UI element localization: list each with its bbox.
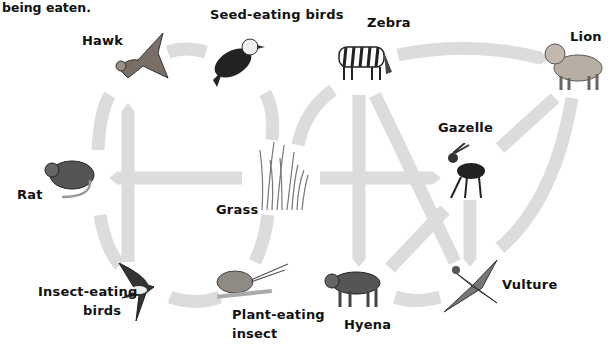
seed-eating-bird-icon bbox=[205, 35, 265, 90]
label-seed-eating-birds: Seed-eating birds bbox=[210, 8, 344, 23]
label-insect-eating: Insect-eating bbox=[38, 285, 137, 300]
label-hawk: Hawk bbox=[82, 34, 123, 49]
gazelle-icon bbox=[443, 143, 491, 201]
rat-icon bbox=[42, 155, 102, 203]
label-insect: insect bbox=[232, 327, 277, 342]
label-birds: birds bbox=[83, 304, 121, 319]
lion-icon bbox=[543, 40, 605, 92]
arrowhead-grass-rat bbox=[109, 171, 118, 185]
label-zebra: Zebra bbox=[367, 16, 411, 31]
arrow-hyena-vulture bbox=[395, 297, 440, 301]
label-grass: Grass bbox=[216, 203, 258, 218]
grass-icon bbox=[252, 140, 312, 212]
vulture-icon bbox=[442, 258, 502, 314]
arrow-gazelle-hyena bbox=[390, 210, 445, 268]
label-rat: Rat bbox=[17, 188, 43, 203]
arrow-seedbirds-hawk bbox=[168, 49, 206, 52]
label-lion: Lion bbox=[570, 30, 602, 45]
zebra-icon bbox=[334, 42, 396, 82]
arrow-zebra-lion bbox=[398, 48, 540, 58]
label-gazelle: Gazelle bbox=[438, 121, 493, 136]
arrowhead-grass-gazelle bbox=[432, 171, 441, 185]
arrowhead-insectbirds-hawk bbox=[121, 103, 135, 112]
arrow-grass-seedbirds bbox=[265, 93, 273, 140]
arrow-rat-insectbirds bbox=[100, 215, 120, 265]
plant-eating-insect-icon bbox=[213, 262, 291, 302]
arrow-gazelle-lion bbox=[500, 98, 555, 148]
arrow-grass-insect bbox=[255, 215, 268, 262]
arrow-rat-hawk bbox=[98, 95, 110, 150]
label-hyena: Hyena bbox=[344, 318, 391, 333]
arrow-grass-zebra bbox=[298, 90, 333, 145]
label-plant-eating: Plant-eating bbox=[232, 308, 325, 323]
hyena-icon bbox=[322, 265, 384, 309]
label-vulture: Vulture bbox=[502, 278, 557, 293]
